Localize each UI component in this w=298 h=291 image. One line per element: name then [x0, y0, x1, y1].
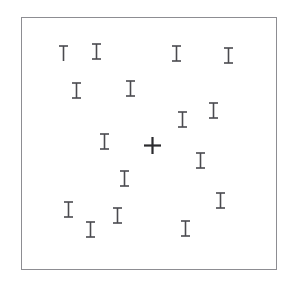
distractor-i-10 — [114, 168, 135, 189]
distractor-i-6 — [203, 100, 224, 121]
stimulus-canvas — [0, 0, 298, 291]
target-plus[interactable] — [141, 134, 164, 157]
distractor-i-5 — [120, 78, 141, 99]
distractor-i-9 — [190, 150, 211, 171]
distractor-i-11 — [210, 190, 231, 211]
distractor-i-13 — [107, 205, 128, 226]
distractor-i-1 — [86, 41, 107, 62]
distractor-i-15 — [175, 218, 196, 239]
distractor-i-12 — [58, 199, 79, 220]
distractor-i-3 — [218, 45, 239, 66]
distractor-i-14 — [80, 219, 101, 240]
distractor-i-4 — [66, 80, 87, 101]
distractor-i-7 — [172, 109, 193, 130]
distractor-i-2 — [166, 43, 187, 64]
distractor-t-1 — [53, 43, 74, 64]
distractor-i-8 — [94, 131, 115, 152]
